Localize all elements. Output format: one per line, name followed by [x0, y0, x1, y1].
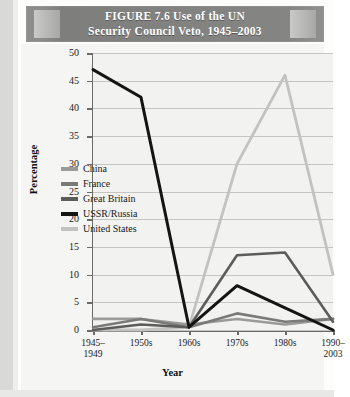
legend-swatch-icon	[61, 227, 78, 231]
y-tick-label: 35	[49, 130, 79, 141]
scan-edge-left	[0, 0, 13, 397]
y-tick-label: 15	[49, 241, 79, 252]
x-tick-label-line: 2003	[305, 349, 350, 360]
legend-swatch-icon	[61, 167, 78, 171]
legend-item-label: Great Britain	[83, 193, 135, 204]
legend-item-label: United States	[83, 223, 137, 234]
x-tick-label: 1990–2003	[305, 338, 350, 360]
figure-title: FIGURE 7.6 Use of the UN Security Counci…	[26, 6, 324, 42]
legend-item-label: China	[83, 163, 107, 174]
x-axis-title: Year	[21, 367, 324, 378]
figure-title-banner: FIGURE 7.6 Use of the UN Security Counci…	[26, 6, 324, 42]
y-tick-label: 5	[49, 296, 79, 307]
scan-edge-left-inner	[13, 0, 18, 397]
figure-title-line-2: Security Council Veto, 1945–2003	[88, 24, 262, 39]
y-tick-label: 0	[49, 324, 79, 335]
scan-edge-bottom	[0, 390, 334, 397]
x-tick-label-line: 1990–	[305, 338, 350, 349]
figure-title-line-1: FIGURE 7.6 Use of the UN	[105, 9, 245, 24]
legend-swatch-icon	[61, 197, 78, 201]
legend-swatch-icon	[61, 182, 78, 186]
chart-legend: ChinaFranceGreat BritainUSSR/RussiaUnite…	[61, 161, 137, 236]
chart-container: Percentage Year 05101520253035404550 194…	[21, 44, 324, 390]
legend-item-united-states[interactable]: United States	[61, 221, 137, 236]
legend-item-china[interactable]: China	[61, 161, 137, 176]
legend-item-france[interactable]: France	[61, 176, 137, 191]
y-axis-title: Percentage	[28, 122, 39, 218]
x-tick-label-line: 1949	[65, 349, 121, 360]
legend-item-ussr-russia[interactable]: USSR/Russia	[61, 206, 137, 221]
legend-item-label: USSR/Russia	[83, 208, 137, 219]
legend-item-great-britain[interactable]: Great Britain	[61, 191, 137, 206]
y-tick-label: 50	[49, 47, 79, 58]
legend-item-label: France	[83, 178, 110, 189]
legend-swatch-icon	[61, 212, 78, 216]
y-tick-label: 10	[49, 269, 79, 280]
y-tick-label: 45	[49, 75, 79, 86]
y-tick-label: 40	[49, 102, 79, 113]
